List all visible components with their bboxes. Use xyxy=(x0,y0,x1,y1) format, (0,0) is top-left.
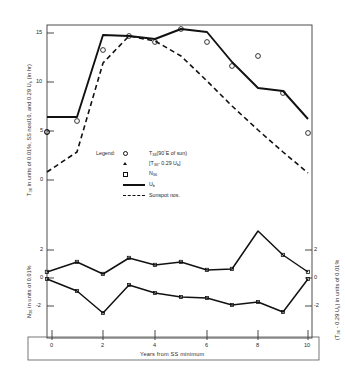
legend-label-sunspot: Sunspot nos. xyxy=(149,190,180,201)
legend-row-sunspot: Sunspot nos. xyxy=(96,190,187,201)
y-tick-top-15: 15 xyxy=(36,29,42,35)
y-tick-top-5: 5 xyxy=(40,127,43,133)
x-tick-0: 0 xyxy=(50,342,53,348)
y-axis-title-bottom-right: (T36 - 0.29 Ub) in units of 0.01% xyxy=(334,260,341,340)
series-n36-line xyxy=(47,279,308,313)
y-tick-bottom-left-0: 0 xyxy=(40,274,43,280)
legend-row-t36-minus-ub: [T36- 0.29 Ub] xyxy=(96,159,187,170)
triangle-icon xyxy=(123,162,149,165)
x-tick-6: 6 xyxy=(205,342,208,348)
x-tick-2: 2 xyxy=(101,342,104,348)
y-tick-bottom-right-2: 2 xyxy=(314,246,317,252)
series-ub-line xyxy=(47,29,308,119)
y-tick-bottom-left-neg2: -2 xyxy=(36,302,41,308)
y-axis-ticks-top xyxy=(47,33,54,180)
x-tick-4: 4 xyxy=(153,342,156,348)
legend: Legend: T36(90°E of sun) [T36- 0.29 Ub] … xyxy=(96,148,187,201)
series-t36-minus-ub-line xyxy=(47,231,308,274)
square-icon xyxy=(123,172,149,177)
y-tick-bottom-right-0: 0 xyxy=(314,274,317,280)
x-tick-10: 10 xyxy=(304,342,310,348)
series-t36-minus-ub-markers xyxy=(45,253,309,275)
y-axis-ticks-bottom-left xyxy=(47,250,54,306)
legend-row-n36: N36 xyxy=(96,169,187,180)
x-tick-8: 8 xyxy=(256,342,259,348)
y-axis-title-top: T36 in units of 0.01%, SS nos/10, and 0.… xyxy=(26,64,33,196)
y-tick-top-10: 10 xyxy=(36,78,42,84)
x-axis-ticks xyxy=(52,330,308,340)
circle-icon xyxy=(123,151,149,156)
solid-line-icon xyxy=(123,184,149,186)
y-tick-bottom-right-neg2: -2 xyxy=(314,302,319,308)
x-axis-title: Years from SS minimum xyxy=(140,351,204,357)
legend-row-ub: Ub xyxy=(96,180,187,191)
y-tick-top-0: 0 xyxy=(40,176,43,182)
dashed-line-icon xyxy=(123,195,149,196)
y-tick-bottom-left-2: 2 xyxy=(40,246,43,252)
legend-title: Legend: xyxy=(96,148,123,159)
y-axis-title-bottom-left: N36 in units of 0.01% xyxy=(26,265,33,318)
series-t36-markers xyxy=(45,27,311,136)
